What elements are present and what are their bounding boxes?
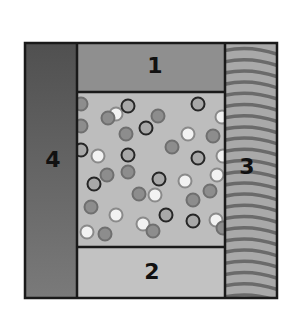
particle-medium bbox=[122, 166, 135, 179]
particle-dark bbox=[122, 100, 135, 113]
particle-medium bbox=[152, 110, 165, 123]
particle-dark bbox=[187, 215, 200, 228]
particle-medium bbox=[99, 228, 112, 241]
particle-white bbox=[149, 189, 162, 202]
particle-white bbox=[92, 150, 105, 163]
particle-dark bbox=[122, 149, 135, 162]
particle-medium bbox=[166, 141, 179, 154]
particle-medium bbox=[204, 185, 217, 198]
particle-medium bbox=[207, 130, 220, 143]
particle-dark bbox=[153, 173, 166, 186]
particle-dark bbox=[192, 98, 205, 111]
particle-medium bbox=[101, 169, 114, 182]
particle-dark bbox=[192, 152, 205, 165]
panel-3-label: 3 bbox=[239, 156, 254, 178]
layered-diagram: 1 2 3 4 bbox=[0, 0, 291, 314]
particle-dark bbox=[160, 209, 173, 222]
particle-white bbox=[81, 226, 94, 239]
panel-2-label: 2 bbox=[144, 261, 159, 283]
panel-1-label: 1 bbox=[147, 55, 162, 77]
particle-white bbox=[110, 209, 123, 222]
particle-white bbox=[182, 128, 195, 141]
particle-dark bbox=[140, 122, 153, 135]
particle-medium bbox=[85, 201, 98, 214]
particle-white bbox=[211, 169, 224, 182]
particle-medium bbox=[133, 188, 146, 201]
particle-medium bbox=[120, 128, 133, 141]
particle-medium bbox=[187, 194, 200, 207]
particle-white bbox=[179, 175, 192, 188]
particle-medium bbox=[102, 112, 115, 125]
particle-medium bbox=[147, 225, 160, 238]
panel-4-label: 4 bbox=[45, 149, 60, 171]
particle-dark bbox=[88, 178, 101, 191]
